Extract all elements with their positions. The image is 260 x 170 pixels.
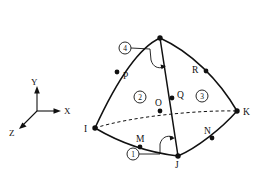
node-label-K: K	[243, 107, 250, 117]
face-4-number: 4	[123, 44, 127, 53]
node-label-Q: Q	[177, 90, 184, 100]
node-label-M: M	[136, 134, 145, 144]
z-axis-line	[22, 111, 37, 126]
node-K	[234, 108, 239, 113]
z-axis-label: Z	[9, 128, 15, 138]
node-I	[92, 125, 97, 130]
face-2-number: 2	[138, 93, 142, 102]
node-label-R: R	[192, 65, 199, 75]
z-axis-arrowhead	[19, 122, 27, 129]
edge-I-K-hidden	[95, 111, 237, 128]
node-L-apex	[157, 35, 162, 40]
y-axis-arrowhead	[34, 86, 40, 94]
node-N	[210, 136, 215, 141]
midside-nodes: P R Q O M N	[115, 65, 215, 149]
node-label-N: N	[204, 126, 211, 136]
coordinate-triad: Y X Z	[9, 77, 71, 138]
y-axis-label: Y	[31, 77, 38, 87]
node-label-J: J	[175, 160, 179, 170]
corner-nodes: I J K	[84, 35, 250, 170]
face-1-number: 1	[131, 150, 135, 159]
node-Q	[170, 96, 175, 101]
leader-line-face-4	[131, 48, 151, 60]
face-callout-2: 2	[134, 91, 146, 103]
face-callout-3: 3	[196, 90, 208, 102]
node-R	[204, 69, 209, 74]
face-3-number: 3	[200, 92, 204, 101]
x-axis-label: X	[64, 106, 71, 116]
node-O	[158, 109, 163, 114]
tetrahedral-element-figure: Y X Z I J K P R Q O M	[0, 0, 260, 170]
face-callout-1: 1	[127, 136, 175, 160]
face-callout-4: 4	[119, 42, 166, 69]
node-P	[115, 70, 120, 75]
x-axis-arrowhead	[54, 108, 62, 114]
node-M	[138, 145, 143, 150]
node-label-I: I	[84, 124, 87, 134]
node-label-P: P	[123, 71, 128, 81]
node-J	[175, 153, 180, 158]
node-label-O: O	[155, 98, 162, 108]
